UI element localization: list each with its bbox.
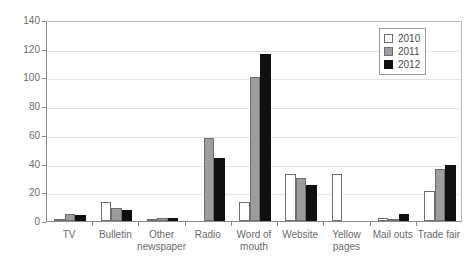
x-axis-category-label-line: pages	[315, 241, 377, 253]
legend-swatch-icon	[384, 34, 393, 43]
bar-chart: 020406080100120140 TVBulletinOthernewspa…	[0, 0, 473, 256]
y-axis-tick-label: 60	[4, 131, 40, 141]
bar-2012-4	[214, 158, 225, 221]
bar-2011-8	[388, 219, 399, 221]
y-axis-tick-mark	[42, 222, 46, 223]
bar-2010-1	[54, 219, 65, 221]
bar-2010-6	[285, 174, 296, 221]
bar-2012-1	[75, 215, 86, 221]
bar-2010-2	[101, 202, 112, 221]
y-axis-tick-label: 120	[4, 45, 40, 55]
bar-2011-3	[157, 218, 168, 221]
y-axis-tick-label: 100	[4, 73, 40, 83]
legend-label: 2010	[398, 34, 420, 44]
x-axis-category-label: Trade fair	[408, 229, 470, 241]
bar-2010-8	[378, 218, 389, 221]
y-axis-tick-label: 140	[4, 16, 40, 26]
x-axis-tick-mark	[323, 222, 324, 226]
x-axis-category-label-line: Trade fair	[408, 229, 470, 241]
legend-label: 2012	[398, 60, 420, 70]
legend-item-2011: 2011	[384, 45, 420, 58]
bar-2011-6	[296, 178, 307, 221]
y-axis-tick-label: 40	[4, 160, 40, 170]
x-axis-tick-mark	[92, 222, 93, 226]
y-axis-tick-label: 0	[4, 217, 40, 227]
legend-item-2012: 2012	[384, 58, 420, 71]
bar-2012-2	[122, 210, 133, 221]
chart-legend: 201020112012	[379, 28, 426, 75]
bar-2010-5	[239, 202, 250, 221]
legend-label: 2011	[398, 47, 420, 57]
legend-item-2010: 2010	[384, 32, 420, 45]
x-axis-tick-mark	[416, 222, 417, 226]
bar-2010-9	[424, 191, 435, 221]
x-axis-tick-mark	[370, 222, 371, 226]
bar-2012-6	[306, 185, 317, 221]
legend-swatch-icon	[384, 47, 393, 56]
bar-2011-2	[111, 208, 122, 221]
y-axis-tick-label: 80	[4, 102, 40, 112]
bar-2012-5	[260, 54, 271, 221]
bar-2012-8	[399, 214, 410, 221]
bar-2010-7	[332, 174, 343, 221]
bar-2011-5	[250, 77, 261, 221]
legend-swatch-icon	[384, 60, 393, 69]
y-axis-tick-label: 20	[4, 188, 40, 198]
bar-2010-3	[147, 219, 158, 221]
x-axis-tick-mark	[277, 222, 278, 226]
bar-2011-4	[204, 138, 215, 221]
x-axis-category-label-line: mouth	[223, 241, 285, 253]
x-axis-tick-mark	[138, 222, 139, 226]
bar-2011-1	[65, 214, 76, 221]
x-axis-tick-mark	[185, 222, 186, 226]
bar-2011-9	[435, 169, 446, 221]
x-axis-tick-mark	[231, 222, 232, 226]
bar-2012-3	[168, 218, 179, 221]
bar-2012-9	[445, 165, 456, 221]
x-axis-category-label-line: newspaper	[130, 241, 192, 253]
